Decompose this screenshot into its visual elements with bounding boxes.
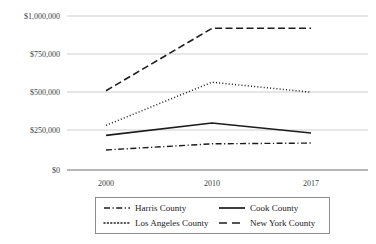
series-lines (106, 28, 311, 150)
y-axis-tick-labels: $1,000,000 $750,000 $500,000 $250,000 $0 (24, 12, 60, 175)
series-line-cook-county (106, 123, 311, 135)
series-line-new-york-county (106, 28, 311, 90)
y-tick-label: $750,000 (30, 50, 60, 59)
y-tick-label: $1,000,000 (24, 12, 60, 21)
legend-label-harris-county: Harris County (135, 203, 187, 213)
y-tick-label: $500,000 (30, 88, 60, 97)
legend-label-los-angeles-county: Los Angeles County (135, 218, 209, 228)
x-tick-label: 2000 (98, 179, 114, 188)
chart-canvas: $1,000,000 $750,000 $500,000 $250,000 $0… (0, 0, 376, 244)
legend: Harris County Cook County Los Angeles Co… (96, 198, 330, 234)
line-chart: $1,000,000 $750,000 $500,000 $250,000 $0… (0, 0, 376, 244)
y-tick-label: $250,000 (30, 126, 60, 135)
legend-label-cook-county: Cook County (250, 203, 299, 213)
x-axis-tick-labels: 2000 2010 2017 (98, 179, 319, 188)
y-tick-label: $0 (52, 166, 60, 175)
legend-label-new-york-county: New York County (250, 218, 316, 228)
gridlines (67, 16, 368, 170)
x-tick-label: 2010 (204, 179, 220, 188)
x-tick-label: 2017 (303, 179, 319, 188)
series-line-harris-county (106, 143, 311, 150)
series-line-los-angeles-county (106, 82, 311, 125)
